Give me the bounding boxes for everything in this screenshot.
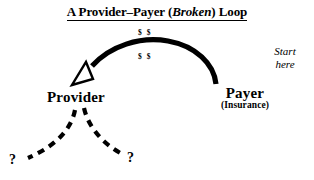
diagram-canvas: A Provider–Payer (Broken) Loop $ $ $ $ P…: [0, 0, 314, 180]
broken-branch-left: [28, 110, 75, 158]
question-mark-right: ?: [127, 150, 134, 165]
node-payer-sublabel: (Insurance): [193, 100, 297, 111]
start-here-line-2: here: [258, 58, 312, 71]
node-payer-label: Payer: [193, 85, 297, 101]
start-here-annotation: Start here: [258, 45, 312, 70]
money-label-top: $ $: [138, 28, 152, 37]
start-here-line-1: Start: [258, 45, 312, 58]
node-provider-label: Provider: [26, 89, 126, 106]
payment-arc-arrowhead: [72, 62, 93, 85]
money-label-bottom: $ $: [138, 52, 152, 61]
broken-branch-right: [84, 108, 124, 155]
payment-arc-line: [92, 40, 216, 84]
question-mark-left: ?: [9, 152, 16, 167]
